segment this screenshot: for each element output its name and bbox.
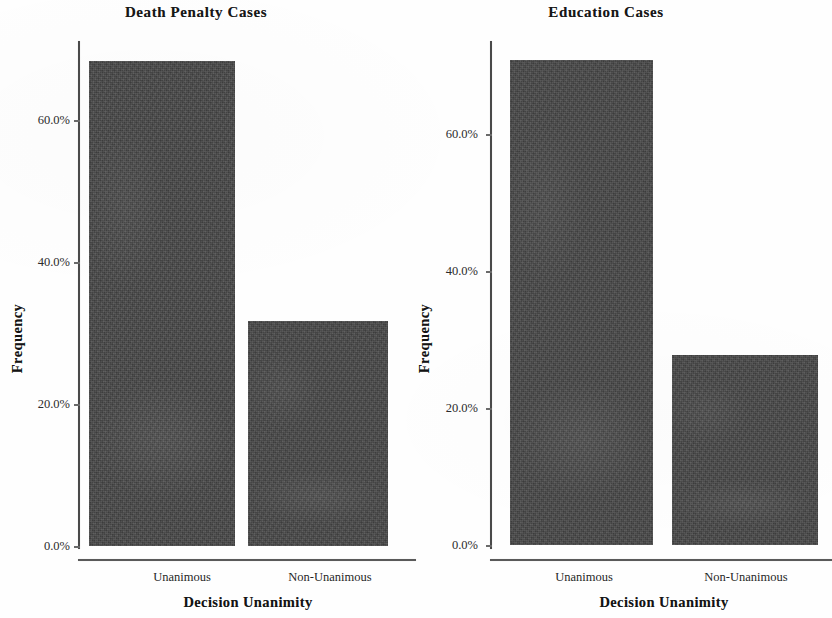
y-tick-mark-60 xyxy=(486,134,492,136)
x-tick-label-non-unanimous: Non-Unanimous xyxy=(704,570,787,585)
x-tick-label-unanimous: Unanimous xyxy=(153,570,211,585)
bar-non-unanimous xyxy=(672,355,818,545)
y-tick-label-60: 60.0% xyxy=(6,113,70,128)
x-axis-line-left xyxy=(78,559,416,561)
bar-non-unanimous xyxy=(248,321,388,546)
y-tick-label-20: 20.0% xyxy=(6,397,70,412)
y-tick-mark-20 xyxy=(74,404,80,406)
y-tick-mark-0 xyxy=(74,546,80,548)
x-axis-line-right xyxy=(490,559,832,561)
y-tick-label-0: 0.0% xyxy=(6,539,70,554)
y-tick-mark-40 xyxy=(486,271,492,273)
y-tick-mark-0 xyxy=(486,545,492,547)
figure-page: Death Penalty Cases 60.0% 40.0% 20.0% 0.… xyxy=(0,0,832,618)
x-tick-label-unanimous: Unanimous xyxy=(555,570,613,585)
x-tick-label-non-unanimous: Non-Unanimous xyxy=(288,570,371,585)
bar-unanimous xyxy=(510,60,653,545)
y-tick-mark-60 xyxy=(74,120,80,122)
x-axis-title-left: Decision Unanimity xyxy=(183,594,312,611)
y-tick-label-40: 40.0% xyxy=(6,255,70,270)
chart-title-death-penalty: Death Penalty Cases xyxy=(0,4,404,21)
y-axis-title-right: Frequency xyxy=(416,289,433,389)
x-axis-title-right: Decision Unanimity xyxy=(599,594,728,611)
chart-panel-education: Education Cases 60.0% 40.0% 20.0% 0.0% U… xyxy=(416,0,832,618)
y-axis-title-left: Frequency xyxy=(9,289,26,389)
y-tick-label-20: 20.0% xyxy=(416,401,478,416)
y-tick-mark-20 xyxy=(486,408,492,410)
y-axis-line-right xyxy=(490,41,492,549)
y-axis-line-left xyxy=(78,41,80,549)
bar-unanimous xyxy=(89,61,235,546)
y-tick-label-60: 60.0% xyxy=(416,127,478,142)
chart-title-education: Education Cases xyxy=(398,4,814,21)
y-tick-label-0: 0.0% xyxy=(416,538,478,553)
y-tick-mark-40 xyxy=(74,262,80,264)
y-tick-label-40: 40.0% xyxy=(416,264,478,279)
chart-panel-death-penalty: Death Penalty Cases 60.0% 40.0% 20.0% 0.… xyxy=(0,0,416,618)
